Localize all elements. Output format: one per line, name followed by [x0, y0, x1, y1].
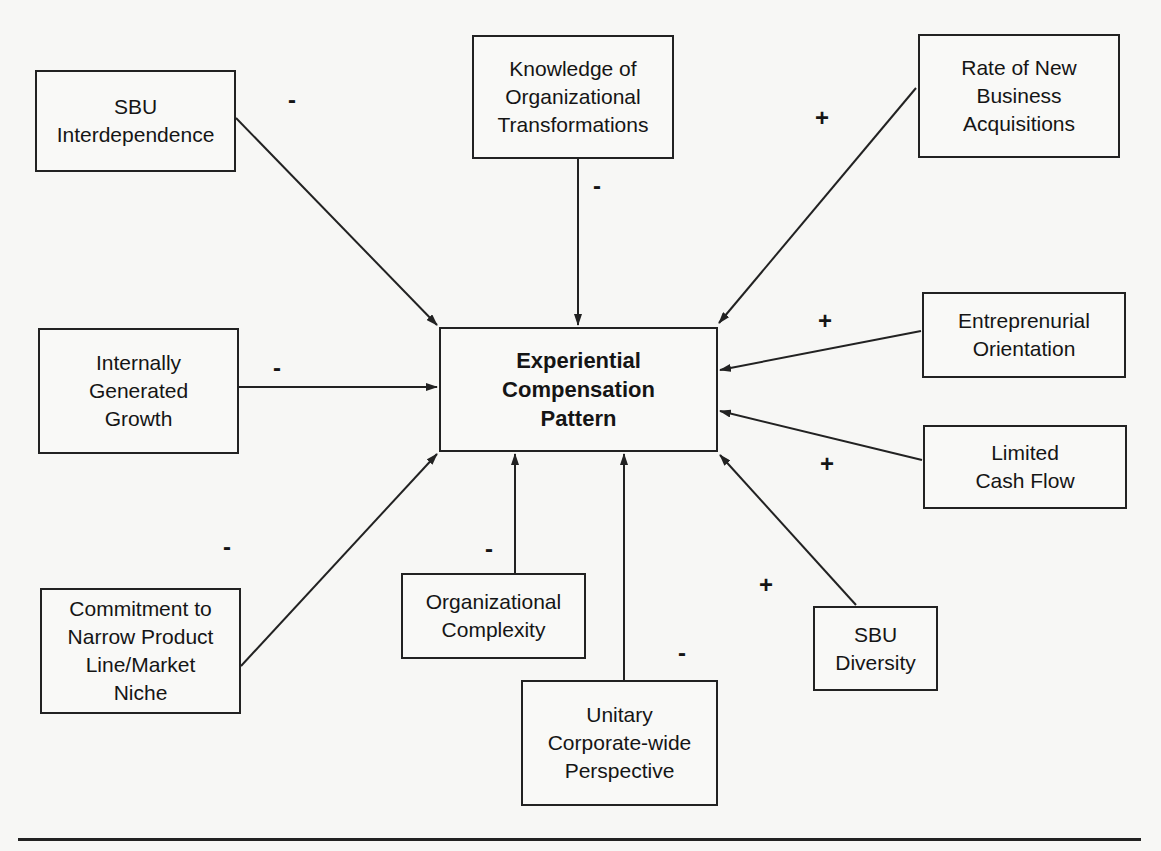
- edge-sign-internally-generated-growth: -: [273, 356, 281, 380]
- node-internally-generated-growth: Internally Generated Growth: [38, 328, 239, 454]
- edge-sign-sbu-interdependence: -: [288, 88, 296, 112]
- node-limited-cash-flow: Limited Cash Flow: [923, 425, 1127, 509]
- edge-sign-organizational-complexity: -: [485, 537, 493, 561]
- node-label: Knowledge of Organizational Transformati…: [498, 55, 649, 139]
- node-experiential-compensation-pattern: Experiential Compensation Pattern: [439, 327, 718, 452]
- node-label: SBU Interdependence: [57, 93, 215, 149]
- node-label: Limited Cash Flow: [975, 439, 1074, 495]
- arrow-sbu-interdependence-to-center: [236, 118, 437, 325]
- node-label: Entreprenurial Orientation: [958, 307, 1090, 363]
- edge-sign-commitment-narrow-product-line: -: [223, 535, 231, 559]
- node-unitary-corporate-perspective: Unitary Corporate-wide Perspective: [521, 680, 718, 806]
- edge-sign-entrepreneurial-orientation: +: [818, 309, 832, 333]
- node-label: Commitment to Narrow Product Line/Market…: [68, 595, 214, 707]
- edge-sign-rate-new-business-acquisitions: +: [815, 106, 829, 130]
- arrow-sbu-diversity-to-center: [720, 455, 856, 605]
- edge-sign-unitary-corporate-perspective: -: [678, 641, 686, 665]
- node-label: Experiential Compensation Pattern: [502, 346, 655, 433]
- node-entrepreneurial-orientation: Entreprenurial Orientation: [922, 292, 1126, 378]
- edge-sign-limited-cash-flow: +: [820, 452, 834, 476]
- node-sbu-interdependence: SBU Interdependence: [35, 70, 236, 172]
- node-label: Rate of New Business Acquisitions: [961, 54, 1077, 138]
- edge-sign-sbu-diversity: +: [759, 573, 773, 597]
- node-label: Organizational Complexity: [426, 588, 561, 644]
- arrow-entrepreneurial-orientation-to-center: [720, 331, 921, 370]
- bottom-rule: [18, 838, 1141, 841]
- node-commitment-narrow-product-line: Commitment to Narrow Product Line/Market…: [40, 588, 241, 714]
- edge-sign-knowledge-org-transformations: -: [593, 174, 601, 198]
- node-rate-new-business-acquisitions: Rate of New Business Acquisitions: [918, 34, 1120, 158]
- node-label: SBU Diversity: [835, 621, 916, 677]
- node-label: Internally Generated Growth: [89, 349, 188, 433]
- node-sbu-diversity: SBU Diversity: [813, 606, 938, 691]
- node-knowledge-org-transformations: Knowledge of Organizational Transformati…: [472, 35, 674, 159]
- node-label: Unitary Corporate-wide Perspective: [548, 701, 692, 785]
- node-organizational-complexity: Organizational Complexity: [401, 573, 586, 659]
